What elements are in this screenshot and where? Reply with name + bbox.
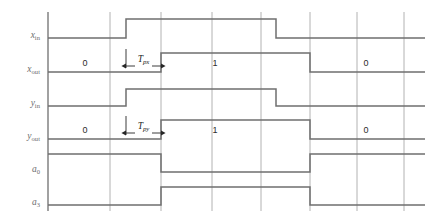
tpy-label: Tpy xyxy=(138,121,151,132)
signal-label-y-in-sub: in xyxy=(35,102,41,109)
signal-label-a-3-sub: 3 xyxy=(37,201,41,208)
timing-diagram: xin xout yin yout a0 a3 0 1 0 0 1 0 xyxy=(0,0,432,221)
signal-label-y-out-sub: out xyxy=(32,135,41,142)
value-y-out-1: 1 xyxy=(212,125,217,135)
tpx-label: Tpx xyxy=(138,54,150,65)
timing-diagram-canvas: xin xout yin yout a0 a3 0 1 0 0 1 0 xyxy=(0,0,432,221)
value-x-out-0a: 0 xyxy=(82,58,87,68)
tpy-label-sub: py xyxy=(142,125,150,132)
waveform-x-in xyxy=(48,19,425,38)
signal-label-a-0-sub: 0 xyxy=(37,168,41,175)
waveform-y-in xyxy=(48,89,425,106)
waveform-a-3 xyxy=(48,187,425,205)
waveforms xyxy=(48,19,425,205)
signal-label-x-in: xin xyxy=(30,30,41,41)
signal-labels: xin xout yin yout a0 a3 xyxy=(26,30,40,208)
waveform-a-0 xyxy=(48,154,425,172)
annotation-tpx: Tpx xyxy=(126,49,161,68)
signal-label-x-out: xout xyxy=(26,64,40,75)
signal-label-x-out-sub: out xyxy=(32,68,41,75)
tpx-label-sub: px xyxy=(142,58,149,65)
signal-label-a-0: a0 xyxy=(32,164,41,175)
signal-label-x-in-sub: in xyxy=(35,34,41,41)
signal-label-a-3: a3 xyxy=(32,197,41,208)
value-x-out-0b: 0 xyxy=(363,58,368,68)
signal-label-y-out: yout xyxy=(26,131,40,142)
gridlines xyxy=(110,12,404,211)
value-y-out-0a: 0 xyxy=(82,125,87,135)
value-y-out-0b: 0 xyxy=(363,125,368,135)
value-x-out-1: 1 xyxy=(212,58,217,68)
signal-label-y-in: yin xyxy=(30,98,41,109)
annotation-tpy: Tpy xyxy=(126,116,161,135)
